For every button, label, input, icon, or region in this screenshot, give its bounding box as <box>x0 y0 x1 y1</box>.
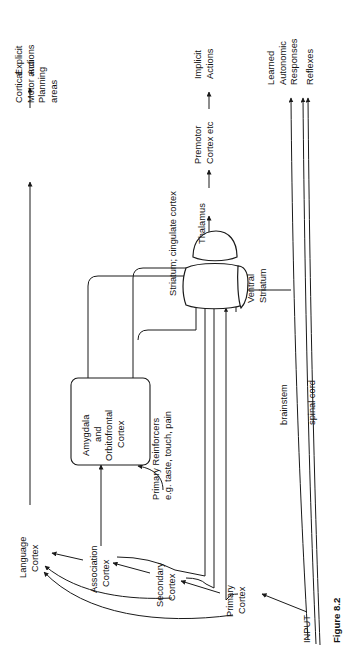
label-learned-autonomic: Learned Autonomic Responses <box>266 38 299 85</box>
ventral-striatum-line2: Striatum <box>258 268 268 303</box>
label-premotor-cortex: Premotor Cortex etc <box>193 121 215 164</box>
figure-container: Cortical Motor and Planning areas Explic… <box>0 0 349 651</box>
primary-cortex-line2: Cortex <box>237 586 247 614</box>
label-explicit-actions: Explicit Actions <box>14 44 36 75</box>
amygdala-line2: and <box>93 426 103 442</box>
label-language-cortex: Language Cortex <box>18 537 40 578</box>
edge-brainstem-to-autonomic-responses <box>291 98 308 640</box>
cortical-motor-line3: Planning <box>37 67 47 103</box>
implicit-actions-line2: Actions <box>205 48 215 79</box>
autonomic-line2: Autonomic <box>278 41 288 85</box>
language-cortex-line2: Cortex <box>30 544 40 572</box>
label-spinal-cord: spinal cord <box>307 380 317 425</box>
reinforcers-line2: e.g. taste, touch, pain <box>163 411 173 500</box>
amygdala-line4: Cortex <box>116 420 126 448</box>
label-striatum-cingulate: Striatum; cingulate cortex <box>168 191 178 296</box>
label-primary-reinforcers: Primary Reinforcers e.g. taste, touch, p… <box>151 411 173 500</box>
premotor-line2: Cortex etc <box>205 121 215 164</box>
edge-secondary-to-association-cortex <box>113 563 150 573</box>
label-implicit-actions: Implicit Actions <box>193 48 215 79</box>
primary-cortex-line1: Primary <box>225 585 235 617</box>
association-cortex-line1: Association <box>89 545 99 593</box>
brainstem-line1: brainstem <box>279 384 289 425</box>
label-reflexes: Reflexes <box>305 48 315 85</box>
edge-spinalcord-to-reflexes-1 <box>303 98 316 644</box>
label-primary-cortex: Primary Cortex <box>225 585 247 617</box>
striatum-cingulate-line1: Striatum; cingulate cortex <box>168 191 178 296</box>
cortical-motor-line4: areas <box>49 79 59 103</box>
input-line1: INPUT <box>302 615 312 643</box>
secondary-cortex-line1: Secondary <box>155 562 165 607</box>
spinal-cord-line1: spinal cord <box>307 380 317 425</box>
reflexes-line1: Reflexes <box>305 48 315 85</box>
association-cortex-line2: Cortex <box>101 559 111 587</box>
secondary-cortex-line2: Cortex <box>167 573 177 601</box>
premotor-line1: Premotor <box>193 126 203 164</box>
cortical-motor-line1: Cortical <box>14 71 24 103</box>
amygdala-line1: Amygdala <box>81 414 91 456</box>
explicit-actions-line2: Actions <box>26 44 36 75</box>
edge-amygdala-rail-left <box>88 276 196 378</box>
autonomic-line3: Responses <box>289 38 299 85</box>
label-input: INPUT <box>302 615 312 643</box>
label-thalamus: Thalamus <box>197 203 207 244</box>
autonomic-line1: Learned <box>266 51 276 85</box>
edge-association-to-language-cortex <box>52 553 83 560</box>
implicit-actions-line1: Implicit <box>193 50 203 79</box>
edge-return-curve-primary-to-language <box>44 572 233 619</box>
edge-input-to-primary-cortex <box>262 594 307 612</box>
explicit-actions-line1: Explicit <box>14 45 24 75</box>
label-brainstem: brainstem <box>279 384 289 425</box>
label-association-cortex: Association Cortex <box>89 545 111 593</box>
edge-spinalcord-to-reflexes-2 <box>308 98 320 645</box>
figure-caption-text: Figure 8.2 <box>331 598 342 643</box>
reinforcers-line1: Primary Reinforcers <box>151 418 161 500</box>
striatum-organ-shape <box>183 231 248 309</box>
language-cortex-line1: Language <box>18 537 28 578</box>
amygdala-line3: Orbitofrontal <box>104 410 114 461</box>
label-ventral-striatum: Ventral Striatum <box>246 268 268 303</box>
thalamus-line1: Thalamus <box>197 203 207 244</box>
ventral-striatum-line1: Ventral <box>246 274 256 303</box>
striatum-body <box>183 264 246 309</box>
edge-feeder-horizontal-1 <box>138 330 196 340</box>
figure-caption: Figure 8.2 <box>331 598 342 643</box>
brain-pathways-diagram: Cortical Motor and Planning areas Explic… <box>0 0 349 651</box>
